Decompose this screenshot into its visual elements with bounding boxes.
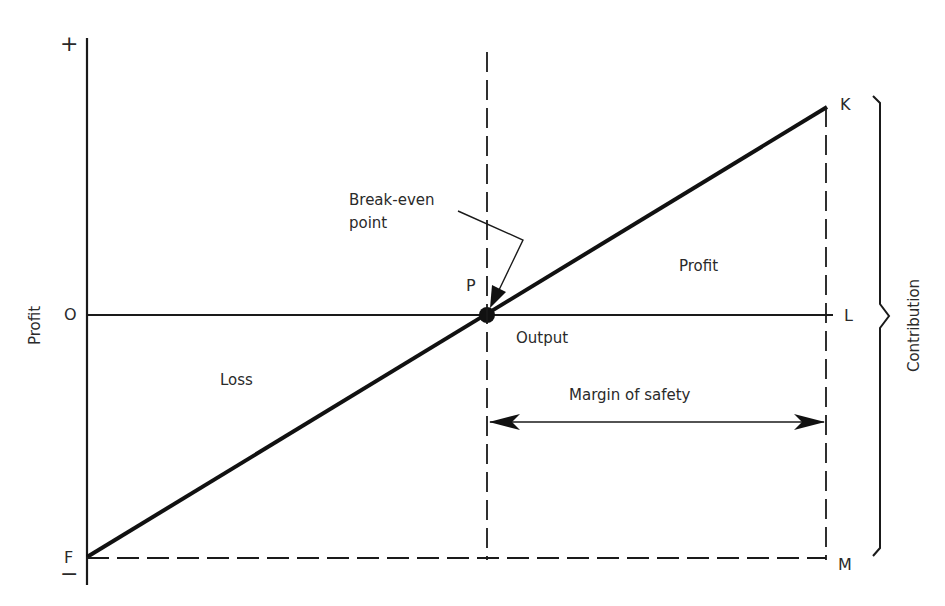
point-m-label: M (838, 557, 852, 573)
point-p-label: P (466, 278, 476, 294)
break-even-label-line1: Break-even (349, 193, 435, 208)
break-even-label-line2: point (349, 216, 387, 231)
positive-sign: + (60, 33, 78, 55)
profit-line (87, 107, 827, 557)
break-even-diagram (0, 0, 945, 606)
y-axis-label: Profit (28, 306, 43, 345)
output-axis-label: Output (516, 331, 568, 346)
point-f-label: F (64, 550, 73, 566)
point-k-label: K (840, 97, 851, 113)
loss-region-label: Loss (220, 373, 253, 388)
margin-of-safety-label: Margin of safety (569, 388, 691, 403)
profit-region-label: Profit (679, 259, 718, 274)
point-l-label: L (844, 308, 853, 324)
contribution-label: Contribution (907, 279, 922, 372)
point-o-label: O (64, 307, 77, 323)
contribution-brace (873, 96, 889, 556)
